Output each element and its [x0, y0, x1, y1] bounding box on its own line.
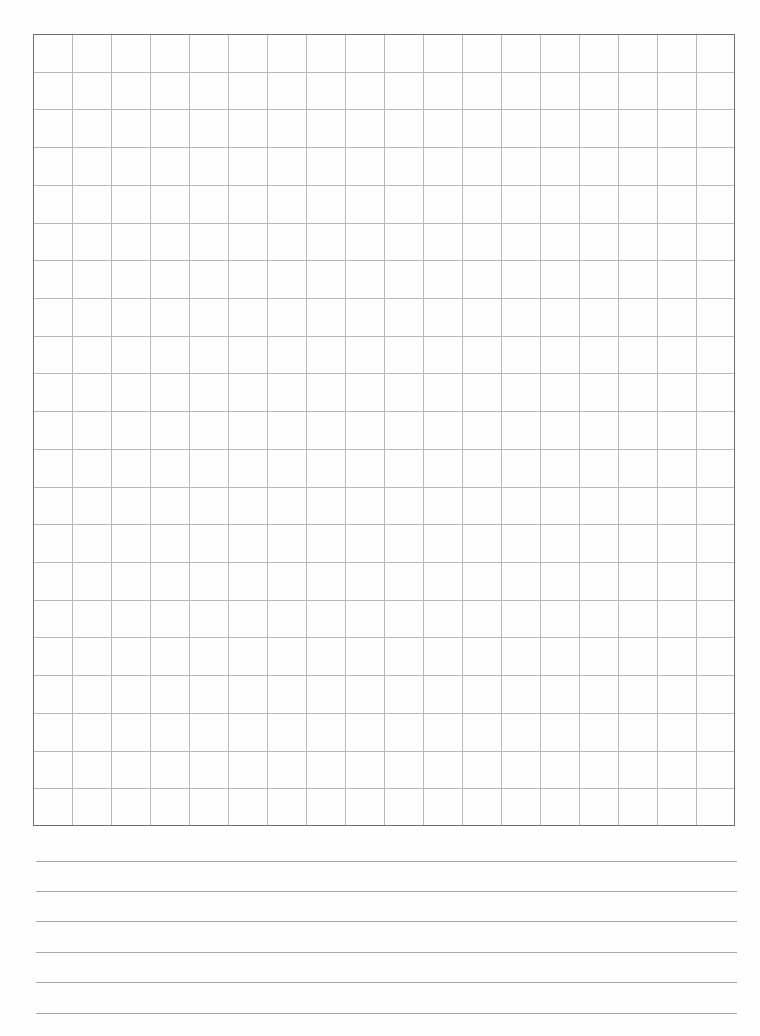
- writing-line: [36, 891, 737, 892]
- grid-horizontal-line: [34, 223, 734, 224]
- grid-vertical-line: [189, 35, 190, 825]
- grid-vertical-line: [462, 35, 463, 825]
- grid-vertical-line: [501, 35, 502, 825]
- grid-horizontal-line: [34, 487, 734, 488]
- grid-horizontal-line: [34, 72, 734, 73]
- grid-horizontal-line: [34, 675, 734, 676]
- writing-line: [36, 1013, 737, 1014]
- writing-line: [36, 982, 737, 983]
- grid-horizontal-line: [34, 260, 734, 261]
- writing-line: [36, 861, 737, 862]
- grid-vertical-line: [72, 35, 73, 825]
- grid-horizontal-line: [34, 449, 734, 450]
- grid-horizontal-line: [34, 713, 734, 714]
- grid-horizontal-line: [34, 109, 734, 110]
- grid-vertical-line: [423, 35, 424, 825]
- grid-horizontal-line: [34, 751, 734, 752]
- writing-line: [36, 952, 737, 953]
- grid-vertical-line: [345, 35, 346, 825]
- grid-vertical-line: [696, 35, 697, 825]
- grid-horizontal-line: [34, 524, 734, 525]
- square-grid: [33, 34, 735, 826]
- grid-paper-page: [0, 0, 760, 1036]
- grid-vertical-line: [111, 35, 112, 825]
- grid-vertical-line: [267, 35, 268, 825]
- grid-horizontal-line: [34, 336, 734, 337]
- grid-horizontal-line: [34, 788, 734, 789]
- grid-horizontal-line: [34, 185, 734, 186]
- grid-horizontal-line: [34, 147, 734, 148]
- grid-vertical-line: [150, 35, 151, 825]
- grid-vertical-line: [657, 35, 658, 825]
- grid-horizontal-line: [34, 373, 734, 374]
- grid-vertical-line: [618, 35, 619, 825]
- grid-vertical-line: [228, 35, 229, 825]
- grid-horizontal-line: [34, 600, 734, 601]
- grid-horizontal-line: [34, 637, 734, 638]
- grid-horizontal-line: [34, 298, 734, 299]
- writing-line: [36, 921, 737, 922]
- grid-vertical-line: [540, 35, 541, 825]
- grid-vertical-line: [306, 35, 307, 825]
- grid-horizontal-line: [34, 411, 734, 412]
- grid-vertical-line: [579, 35, 580, 825]
- grid-horizontal-line: [34, 562, 734, 563]
- grid-vertical-line: [384, 35, 385, 825]
